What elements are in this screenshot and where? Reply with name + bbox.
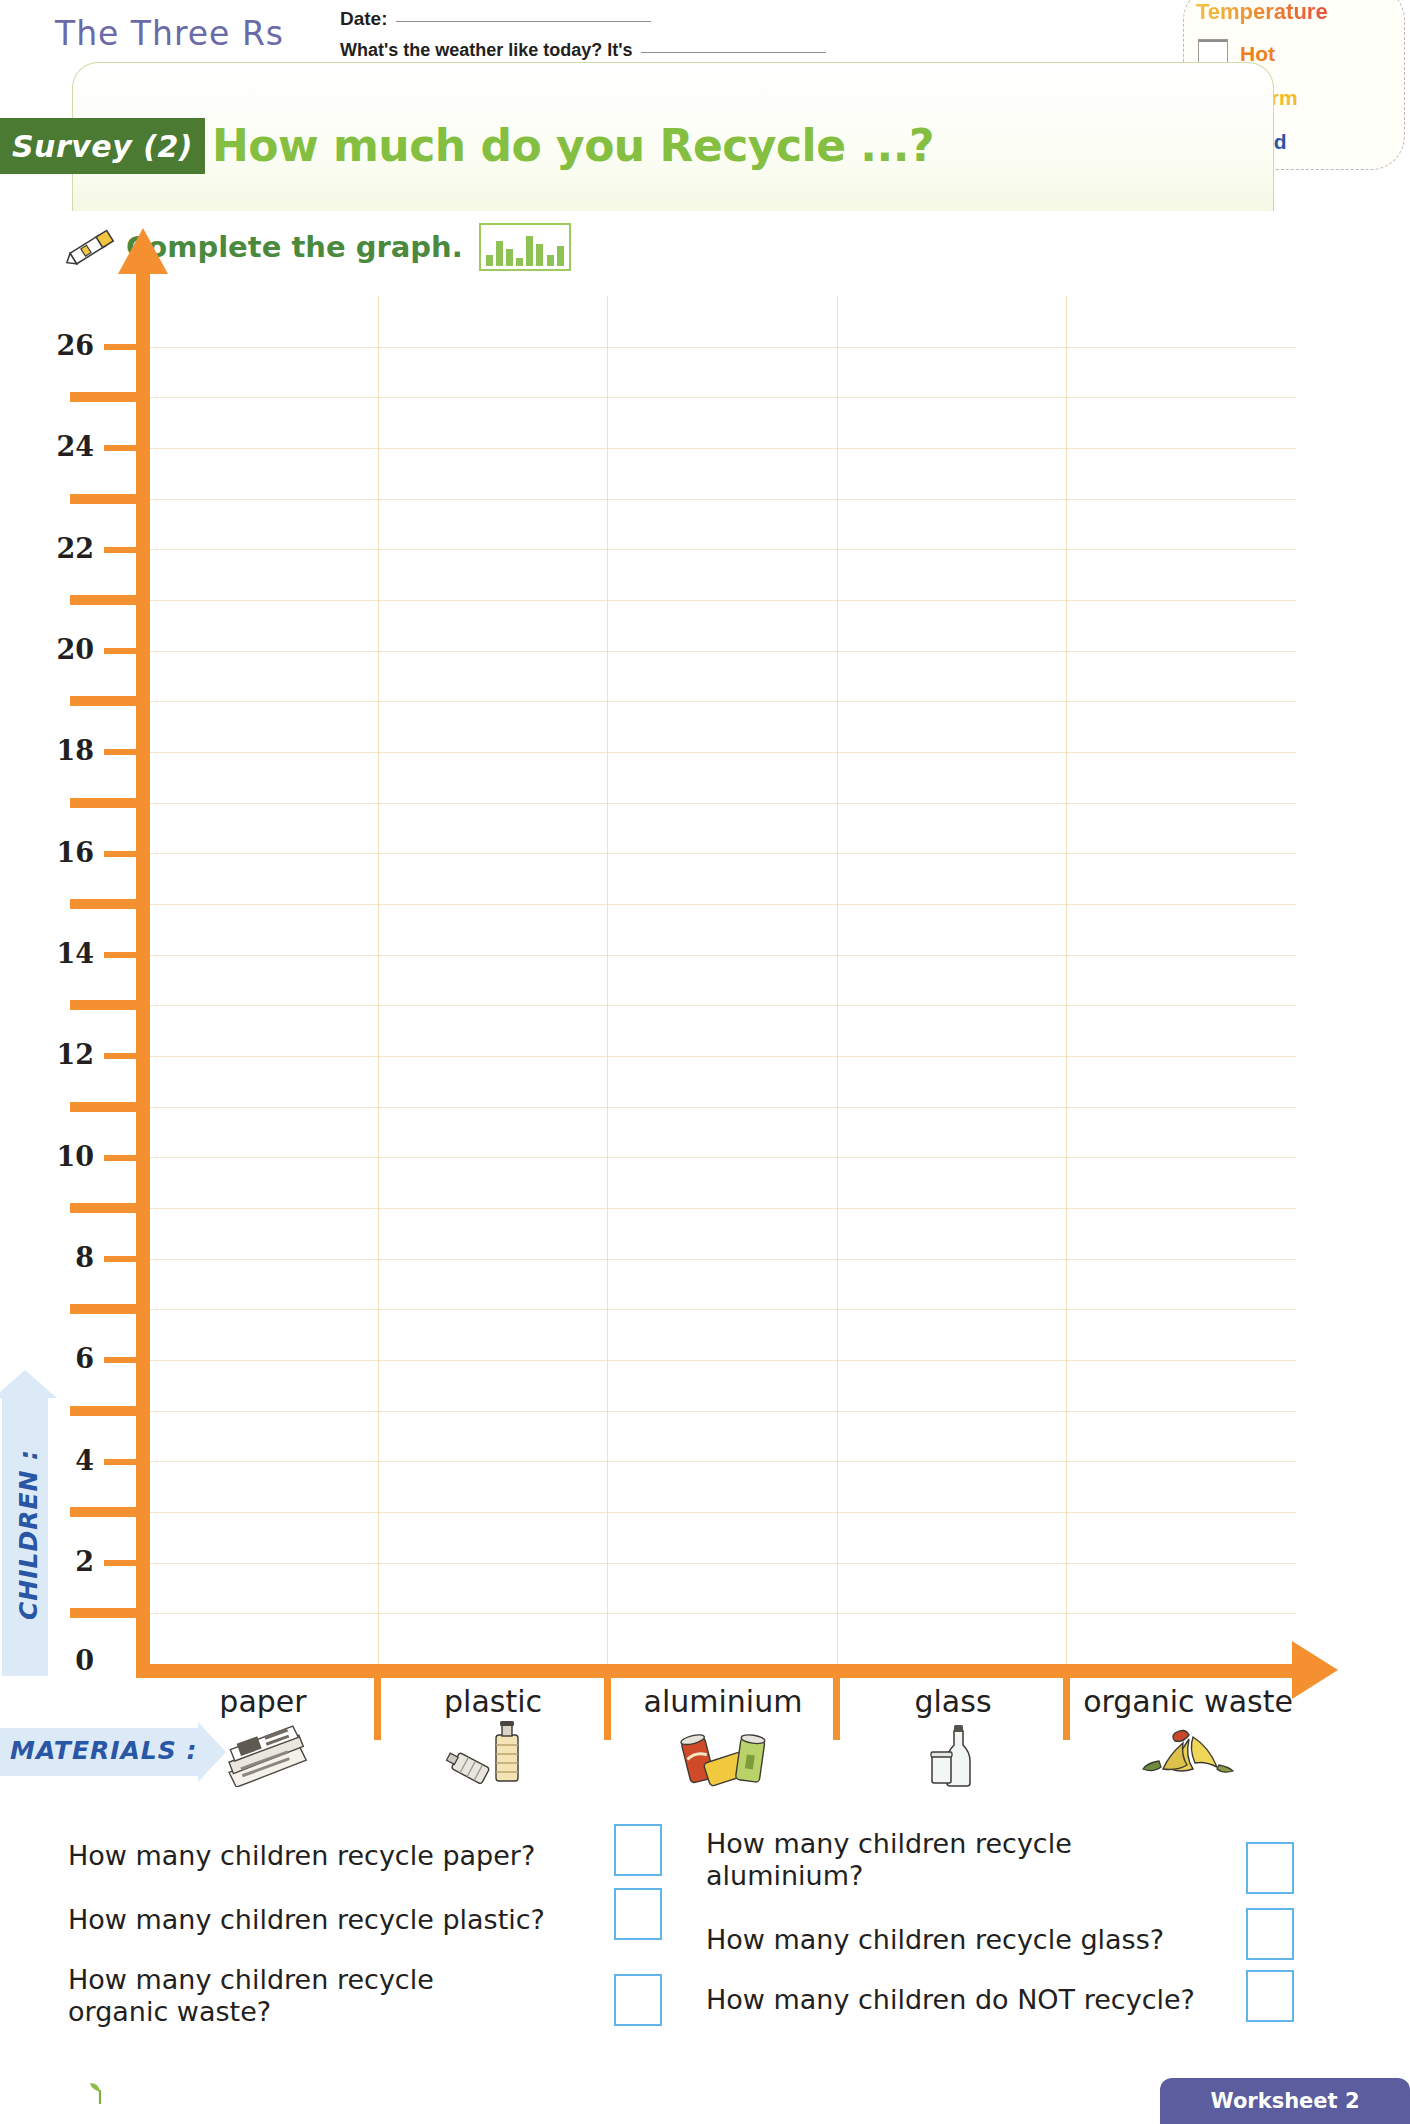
worksheet-tab[interactable]: Worksheet 2 <box>1160 2078 1410 2124</box>
plot-area[interactable] <box>148 296 1296 1664</box>
y-tick-label: 8 <box>44 1242 94 1273</box>
x-category-plastic: plastic <box>378 1684 608 1791</box>
answer-box-plastic[interactable] <box>614 1888 662 1940</box>
y-tick-label: 20 <box>44 634 94 665</box>
question-aluminium: How many children recycle aluminium? <box>706 1828 1126 1892</box>
question-organic-waste: How many children recycle organic waste? <box>68 1964 488 2028</box>
y-tick-label: 4 <box>44 1445 94 1476</box>
answer-box-not-recycle[interactable] <box>1246 1970 1294 2022</box>
questions-section: How many children recycle paper? How man… <box>0 1812 1364 2042</box>
x-category-glass: glass <box>838 1684 1068 1791</box>
question-glass: How many children recycle glass? <box>706 1924 1226 1956</box>
banana-peel-and-food-scraps-icon <box>1123 1721 1253 1787</box>
y-axis-arrow <box>118 228 168 274</box>
answer-box-organic-waste[interactable] <box>614 1974 662 2026</box>
aluminium-cans-icon <box>668 1721 778 1787</box>
y-tick-label: 0 <box>44 1645 94 1676</box>
x-category-organic-waste: organic waste <box>1068 1684 1308 1791</box>
x-category-aluminium: aluminium <box>608 1684 838 1791</box>
answer-box-glass[interactable] <box>1246 1908 1294 1960</box>
x-tick-label: aluminium <box>608 1684 838 1719</box>
y-tick-label: 16 <box>44 837 94 868</box>
children-axis-label: CHILDREN : <box>14 1405 43 1665</box>
glass-bottle-and-jar-icon <box>898 1721 1008 1787</box>
y-tick-label: 10 <box>44 1141 94 1172</box>
materials-axis-label: MATERIALS : <box>10 1736 198 1765</box>
materials-axis-banner: MATERIALS : <box>0 1728 200 1776</box>
y-tick-label: 18 <box>44 735 94 766</box>
answer-box-aluminium[interactable] <box>1246 1842 1294 1894</box>
x-axis <box>136 1664 1296 1678</box>
y-tick-label: 2 <box>44 1546 94 1577</box>
x-tick-label: paper <box>148 1684 378 1719</box>
plastic-bottles-icon <box>438 1721 548 1787</box>
y-tick-label: 14 <box>44 938 94 969</box>
x-tick-label: plastic <box>378 1684 608 1719</box>
x-tick-label: organic waste <box>1068 1684 1308 1719</box>
answer-box-paper[interactable] <box>614 1824 662 1876</box>
sprout-icon <box>88 2082 112 2104</box>
bar-chart: 26 24 22 20 18 16 14 12 10 8 6 4 2 0 pap… <box>0 0 1364 1810</box>
children-axis-banner: CHILDREN : <box>2 1396 48 1676</box>
question-plastic: How many children recycle plastic? <box>68 1904 628 1936</box>
y-axis <box>136 270 150 1672</box>
question-not-recycle: How many children do NOT recycle? <box>706 1984 1246 2016</box>
question-paper: How many children recycle paper? <box>68 1840 628 1872</box>
y-tick-label: 12 <box>44 1039 94 1070</box>
y-tick-label: 26 <box>44 330 94 361</box>
y-tick-label: 22 <box>44 533 94 564</box>
y-tick-label: 24 <box>44 431 94 462</box>
x-tick-label: glass <box>838 1684 1068 1719</box>
